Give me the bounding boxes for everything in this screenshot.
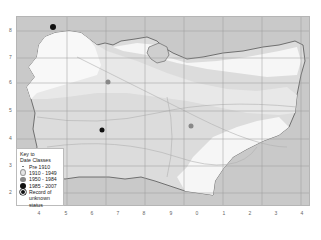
map-legend: Key to Date Classes Pre 1910 1910 - 1949… — [16, 148, 64, 206]
y-axis-label: 4 — [9, 136, 12, 141]
y-axis-label: 2 — [9, 190, 12, 195]
legend-unknown-status-label: unknown status — [20, 195, 60, 207]
x-axis-label: 6 — [91, 211, 94, 216]
x-axis-label: 9 — [170, 211, 173, 216]
black-dot-ring-icon — [20, 189, 26, 195]
x-axis-label: 4 — [38, 211, 41, 216]
record-marker — [106, 80, 111, 85]
x-axis-label: 4 — [301, 211, 304, 216]
black-circle-icon — [20, 183, 26, 189]
record-marker — [189, 124, 194, 129]
grey-circle-icon — [20, 176, 26, 182]
x-axis-label: 8 — [143, 211, 146, 216]
x-axis-label: 0 — [196, 211, 199, 216]
record-marker — [100, 128, 105, 133]
x-axis-label: 7 — [117, 211, 120, 216]
record-marker — [50, 24, 56, 30]
y-axis-label: 3 — [9, 163, 12, 168]
x-axis-label: 2 — [249, 211, 252, 216]
x-axis-label: 5 — [65, 211, 68, 216]
light-circle-icon — [20, 170, 26, 176]
x-axis-label: 1 — [223, 211, 226, 216]
y-axis-label: 7 — [9, 55, 12, 60]
y-axis-label: 5 — [9, 108, 12, 113]
y-axis-label: 8 — [9, 28, 12, 33]
x-axis-label: 3 — [275, 211, 278, 216]
y-axis-label: 6 — [9, 80, 12, 85]
